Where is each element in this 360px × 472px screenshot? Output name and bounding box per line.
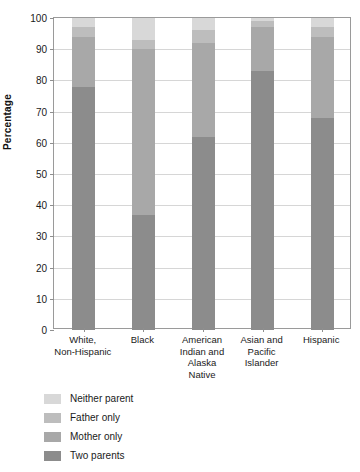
bar-segment[interactable] — [251, 18, 274, 21]
y-tick-mark — [50, 80, 54, 81]
bar-segment[interactable] — [311, 118, 334, 330]
legend-item-label: Two parents — [70, 450, 124, 461]
bar-segment[interactable] — [72, 87, 95, 330]
y-tick-mark — [50, 174, 54, 175]
y-axis-title: Percentage — [2, 30, 13, 150]
plot-area: 0102030405060708090100 — [53, 17, 351, 329]
bar-3[interactable] — [192, 18, 215, 328]
bar-segment[interactable] — [132, 18, 155, 40]
legend-color-swatch — [44, 413, 61, 423]
legend-item-label: Mother only — [70, 431, 122, 442]
bar-segment[interactable] — [251, 71, 274, 330]
bar-4[interactable] — [251, 18, 274, 328]
y-tick-mark — [50, 49, 54, 50]
legend-color-swatch — [44, 451, 61, 461]
legend-item-3[interactable]: Mother only — [44, 427, 133, 446]
stacked-bar-chart-figure: Percentage 0102030405060708090100 White,… — [0, 0, 360, 472]
y-tick-mark — [50, 18, 54, 19]
x-tick-mark — [263, 328, 264, 332]
y-tick-mark — [50, 330, 54, 331]
legend-color-swatch — [44, 432, 61, 442]
bar-segment[interactable] — [72, 37, 95, 87]
legend-item-4[interactable]: Two parents — [44, 446, 133, 465]
y-tick-label: 100 — [30, 13, 47, 24]
x-tick-mark — [143, 328, 144, 332]
y-tick-label: 10 — [36, 293, 47, 304]
bar-5[interactable] — [311, 18, 334, 328]
y-tick-mark — [50, 205, 54, 206]
x-tick-mark — [84, 328, 85, 332]
y-tick-mark — [50, 299, 54, 300]
bar-segment[interactable] — [72, 27, 95, 36]
bar-segment[interactable] — [311, 37, 334, 118]
x-axis-category-label: Hispanic — [283, 334, 359, 346]
legend-item-label: Father only — [70, 412, 120, 423]
bar-segment[interactable] — [311, 18, 334, 27]
bar-segment[interactable] — [132, 215, 155, 330]
y-tick-label: 40 — [36, 200, 47, 211]
legend-item-label: Neither parent — [70, 393, 133, 404]
y-tick-label: 60 — [36, 137, 47, 148]
bar-2[interactable] — [132, 18, 155, 328]
legend-item-2[interactable]: Father only — [44, 408, 133, 427]
x-tick-mark — [203, 328, 204, 332]
bar-segment[interactable] — [192, 18, 215, 30]
chart-legend: Neither parentFather onlyMother onlyTwo … — [44, 389, 133, 465]
y-tick-label: 80 — [36, 75, 47, 86]
y-tick-label: 50 — [36, 169, 47, 180]
y-tick-label: 30 — [36, 231, 47, 242]
bar-segment[interactable] — [251, 27, 274, 71]
bar-segment[interactable] — [72, 18, 95, 27]
bar-segment[interactable] — [192, 43, 215, 137]
y-tick-mark — [50, 143, 54, 144]
bar-segment[interactable] — [311, 27, 334, 36]
bar-segment[interactable] — [251, 21, 274, 27]
bar-segment[interactable] — [132, 40, 155, 49]
y-tick-label: 70 — [36, 106, 47, 117]
bar-1[interactable] — [72, 18, 95, 328]
bar-segment[interactable] — [132, 49, 155, 214]
y-tick-mark — [50, 112, 54, 113]
y-tick-mark — [50, 268, 54, 269]
bar-segment[interactable] — [192, 137, 215, 330]
x-tick-mark — [322, 328, 323, 332]
legend-color-swatch — [44, 394, 61, 404]
legend-item-1[interactable]: Neither parent — [44, 389, 133, 408]
y-tick-mark — [50, 236, 54, 237]
y-tick-label: 20 — [36, 262, 47, 273]
y-tick-label: 90 — [36, 44, 47, 55]
bar-segment[interactable] — [192, 30, 215, 42]
